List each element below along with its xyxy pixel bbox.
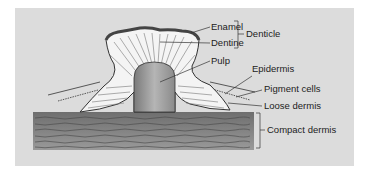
label-compact-dermis: Compact dermis <box>267 125 336 135</box>
label-pigment-cells: Pigment cells <box>264 84 321 94</box>
label-pulp: Pulp <box>211 56 230 66</box>
denticle <box>80 28 230 112</box>
pulp-cavity <box>134 62 175 112</box>
label-epidermis: Epidermis <box>252 64 294 74</box>
label-denticle: Denticle <box>246 29 280 39</box>
label-dentine: Dentine <box>211 38 244 48</box>
label-loose-dermis: Loose dermis <box>264 101 321 111</box>
label-enamel: Enamel <box>211 22 243 32</box>
compact-dermis-layer <box>33 112 254 150</box>
